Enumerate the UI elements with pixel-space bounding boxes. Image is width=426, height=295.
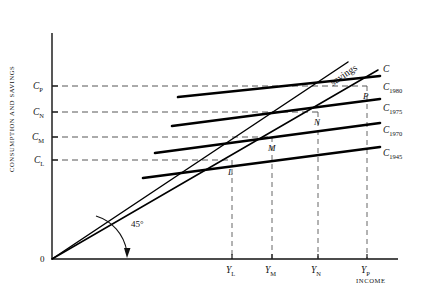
x-tick-labels: YL YM YN YP xyxy=(226,265,370,277)
curve-label-c1945: C1945 xyxy=(383,148,402,160)
x-tick-label-yp: YP xyxy=(361,265,370,277)
consumption-line-1945 xyxy=(143,147,380,178)
curve-label-c1970: C1970 xyxy=(383,125,402,137)
y-tick-label-cn: CN xyxy=(33,107,44,119)
point-label-l: L xyxy=(227,167,233,177)
x-tick-label-yn: YN xyxy=(311,265,321,277)
point-label-n: N xyxy=(313,117,321,127)
y-axis-ticks xyxy=(52,86,58,160)
y-tick-label-cp: CP xyxy=(33,81,43,93)
x-axis-title: INCOME xyxy=(356,277,386,284)
x-tick-label-ym: YM xyxy=(265,265,276,277)
point-label-m: M xyxy=(267,143,276,153)
curve-label-c1980: C1980 xyxy=(383,82,402,94)
y-tick-labels: CP CN CM CL xyxy=(32,81,44,167)
consumption-savings-chart: CONSUMPTION AND SAVINGS INCOME 0 45° sav… xyxy=(0,0,426,295)
angle-arc-arrow xyxy=(96,216,127,252)
forty-five-degree-line xyxy=(52,62,348,259)
x-tick-label-yl: YL xyxy=(226,265,235,277)
angle-label: 45° xyxy=(131,219,144,229)
point-label-p: P xyxy=(362,91,369,101)
angle-annotation xyxy=(96,216,131,258)
consumption-line-1975 xyxy=(172,99,380,126)
curve-labels: C C1980 C1975 C1970 C1945 xyxy=(383,64,402,160)
long-run-consumption-line-c xyxy=(52,70,378,259)
y-axis-title: CONSUMPTION AND SAVINGS xyxy=(8,66,15,172)
origin-label: 0 xyxy=(40,254,45,264)
curve-label-c1975: C1975 xyxy=(383,103,402,115)
y-tick-label-cm: CM xyxy=(32,132,44,144)
x-axis-ticks xyxy=(232,254,367,259)
curve-label-c: C xyxy=(383,64,390,74)
y-tick-label-cl: CL xyxy=(34,155,44,167)
angle-arrowhead xyxy=(124,248,131,258)
